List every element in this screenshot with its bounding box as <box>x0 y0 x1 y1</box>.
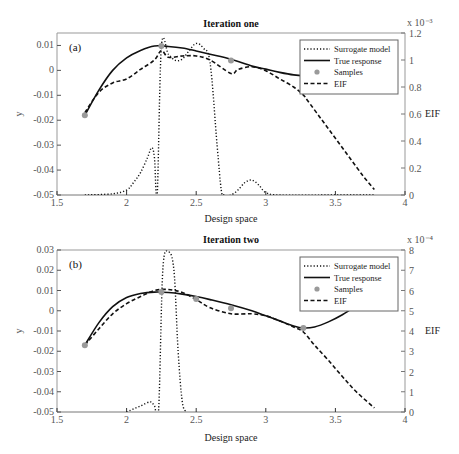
sample-marker <box>158 43 164 49</box>
y2-tick-label: 6 <box>409 286 414 297</box>
plot-title: Iteration two <box>203 234 259 245</box>
y2-tick-label: 2 <box>409 367 414 378</box>
y-tick-label: -0.04 <box>33 386 54 397</box>
panel-label: (b) <box>69 258 82 271</box>
legend: Surrogate modelTrue responseSamplesEIF <box>300 257 398 311</box>
legend-entry: Samples <box>334 67 363 77</box>
x-tick-label: 2.5 <box>190 197 203 208</box>
y2-tick-label: 8 <box>409 245 414 256</box>
legend-entry: EIF <box>334 79 347 89</box>
y2-tick-label: 1.2 <box>409 28 422 39</box>
sample-marker <box>193 296 199 302</box>
chart-panel-1: Iteration one1.522.533.540.010-0.01-0.02… <box>13 17 440 224</box>
y-tick-label: -0.03 <box>33 366 54 377</box>
legend-entry: True response <box>334 56 382 66</box>
legend-entry: Surrogate model <box>334 44 391 54</box>
legend-entry: Surrogate model <box>334 261 391 271</box>
x-tick-label: 2 <box>124 414 129 425</box>
x-tick-label: 2.5 <box>190 414 203 425</box>
y-tick-label: 0.01 <box>37 39 55 50</box>
y-tick-label: 0 <box>49 64 54 75</box>
x-axis-label: Design space <box>204 432 258 443</box>
sample-marker <box>228 57 234 63</box>
y2-tick-label: 1 <box>409 387 414 398</box>
y-tick-label: 0.02 <box>37 264 55 275</box>
y2-axis-label: EIF <box>425 108 440 119</box>
y-tick-label: -0.01 <box>33 89 54 100</box>
x-axis-label: Design space <box>204 213 258 224</box>
y2-tick-label: 4 <box>409 326 414 337</box>
y-tick-label: 0 <box>49 305 54 316</box>
figure: Iteration one1.522.533.540.010-0.01-0.02… <box>0 0 459 454</box>
y2-tick-label: 0.8 <box>409 82 422 93</box>
legend-entry: Samples <box>334 284 363 294</box>
y-tick-label: -0.05 <box>33 189 54 200</box>
x-tick-label: 3.5 <box>329 197 342 208</box>
x-tick-label: 4 <box>403 414 408 425</box>
chart-panel-2: Iteration two1.522.533.540.030.020.010-0… <box>13 234 440 443</box>
y-tick-label: -0.01 <box>33 325 54 336</box>
y2-tick-label: 5 <box>409 306 414 317</box>
y-axis-label: y <box>13 329 24 334</box>
y2-tick-label: 0 <box>409 407 414 418</box>
y-tick-label: -0.03 <box>33 139 54 150</box>
sample-marker <box>82 112 88 118</box>
sample-marker <box>82 342 88 348</box>
y2-tick-label: 0 <box>409 190 414 201</box>
y2-tick-label: 0.6 <box>409 109 422 120</box>
y2-tick-label: 0.4 <box>409 136 422 147</box>
legend-entry: True response <box>334 273 382 283</box>
panel-label: (a) <box>69 41 82 54</box>
y2-tick-label: 0.2 <box>409 163 422 174</box>
y2-tick-label: 1 <box>409 55 414 66</box>
series-surrogate-model <box>127 251 187 419</box>
y-axis-label: y <box>13 112 24 117</box>
y-tick-label: -0.05 <box>33 406 54 417</box>
y2-multiplier: x 10⁻⁴ <box>407 234 434 245</box>
y-tick-label: 0.01 <box>37 285 55 296</box>
y2-tick-label: 3 <box>409 346 414 357</box>
x-tick-label: 3.5 <box>329 414 342 425</box>
y-tick-label: -0.02 <box>33 345 54 356</box>
x-tick-label: 3 <box>263 197 268 208</box>
legend-entry: EIF <box>334 296 347 306</box>
sample-marker <box>300 325 306 331</box>
y2-axis-label: EIF <box>425 325 440 336</box>
y2-multiplier: x 10⁻³ <box>407 17 433 28</box>
sample-marker <box>158 289 164 295</box>
sample-marker <box>228 305 234 311</box>
y-tick-label: 0.03 <box>37 244 55 255</box>
legend-marker-icon <box>314 286 319 291</box>
x-tick-label: 2 <box>124 197 129 208</box>
legend: Surrogate modelTrue responseSamplesEIF <box>300 40 398 94</box>
plot-title: Iteration one <box>203 18 259 29</box>
x-tick-label: 4 <box>403 197 408 208</box>
legend-marker-icon <box>314 69 319 74</box>
y-tick-label: -0.04 <box>33 164 54 175</box>
y2-tick-label: 7 <box>409 265 414 276</box>
y-tick-label: -0.02 <box>33 114 54 125</box>
x-tick-label: 3 <box>263 414 268 425</box>
